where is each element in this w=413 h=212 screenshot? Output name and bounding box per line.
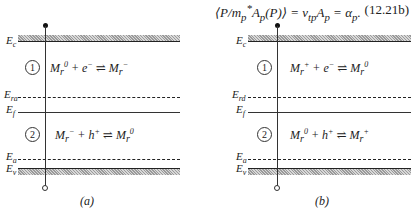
region-2-reaction: Mr− + h+ ⇌ Mr0: [55, 127, 134, 144]
region-1-reaction: Mr+ + e− ⇌ Mr0: [290, 60, 368, 77]
region-2-marker: 2: [257, 127, 272, 142]
label-ev: Ev: [236, 162, 246, 177]
label-ef: Ef: [236, 103, 245, 118]
label-ec: Ec: [6, 34, 16, 49]
transition-line: [45, 26, 46, 186]
caption-b: (b): [315, 194, 329, 209]
region-1-reaction: Mr0 + e− ⇌ Mr−: [50, 60, 128, 77]
equation-number: (12.21b): [365, 2, 409, 18]
region-1-marker: 1: [25, 60, 40, 75]
label-er: Era: [4, 88, 18, 103]
valence-band: [248, 168, 411, 175]
caption-a: (a): [80, 194, 94, 209]
conduction-band: [18, 35, 180, 42]
label-er: Erd: [232, 88, 246, 103]
region-1-marker: 1: [257, 60, 272, 75]
recombination-level: [248, 97, 411, 98]
transition-line: [277, 26, 278, 186]
fermi-level: [18, 112, 180, 113]
panel-b: Ec Erd Ef Ea Ev 1 Mr+ + e− ⇌ Mr0 2 Mr0 +…: [210, 20, 413, 212]
panel-a: Ec Era Ef Ea Ev 1 Mr0 + e− ⇌ Mr− 2 Mr− +…: [0, 20, 200, 212]
label-ev: Ev: [6, 162, 16, 177]
fermi-level: [248, 112, 411, 113]
label-ef: Ef: [6, 103, 15, 118]
equation: ⟨P/mp*Ap(P)⟩ = vtpAp = αp. (12.21b): [0, 2, 413, 22]
valence-band: [18, 168, 180, 175]
conduction-band: [248, 35, 411, 42]
recombination-level: [18, 97, 180, 98]
region-2-marker: 2: [25, 127, 40, 142]
acceptor-level: [248, 159, 411, 160]
region-2-reaction: Mr0 + h+ ⇌ Mr+: [290, 127, 369, 144]
label-ec: Ec: [236, 34, 246, 49]
hole-dot: [42, 185, 48, 191]
acceptor-level: [18, 159, 180, 160]
hole-dot: [274, 185, 280, 191]
